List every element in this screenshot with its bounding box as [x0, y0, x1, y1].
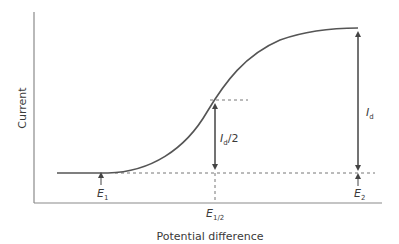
x-axis-label: Potential difference — [157, 230, 264, 243]
y-axis-label: Current — [16, 87, 29, 129]
e1-label: E1 — [97, 187, 108, 202]
id-half-label: Id/2 — [220, 132, 238, 147]
id-label: Id — [366, 106, 374, 121]
e-half-label: E1/2 — [206, 207, 224, 222]
e2-label: E2 — [354, 187, 365, 202]
wave-curve — [57, 28, 358, 173]
wave-diagram: Current Potential difference E1 E1/2 E2 … — [0, 0, 399, 244]
